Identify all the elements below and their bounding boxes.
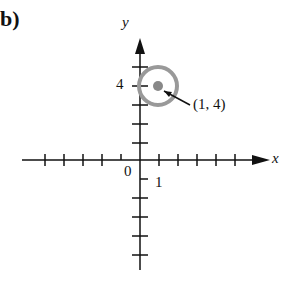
chart: b) xyxy=(0,0,305,293)
x-tick-label: 1 xyxy=(155,174,163,191)
x-axis-label: x xyxy=(272,150,279,167)
x-axis-arrow-icon xyxy=(252,155,270,165)
origin-label: 0 xyxy=(124,163,132,180)
data-point xyxy=(153,81,163,91)
y-axis-arrow-icon xyxy=(135,38,145,54)
point-label: (1, 4) xyxy=(193,96,226,113)
y-axis-label: y xyxy=(122,14,129,31)
y-tick-label: 4 xyxy=(116,76,124,93)
coordinate-plane xyxy=(0,0,305,293)
